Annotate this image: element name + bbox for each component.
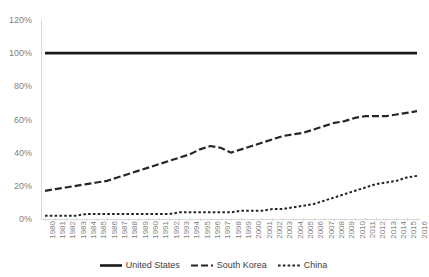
x-axis-tick-mark [159,218,160,221]
x-axis-tick-label: 1992 [173,221,181,239]
chart-legend: United StatesSouth KoreaChina [0,258,427,272]
x-axis: 1980198119821983198419851986198719881989… [42,221,420,257]
x-axis-tick-mark [396,218,397,221]
x-axis-tick-label: 2010 [359,221,367,239]
legend-label: United States [126,261,180,270]
x-axis-tick-mark [45,218,46,221]
x-axis-tick-label: 2006 [317,221,325,239]
x-axis-tick-mark [138,218,139,221]
x-axis-tick-label: 2004 [297,221,305,239]
legend-swatch-icon [191,261,213,270]
legend-swatch-icon [100,261,122,270]
x-axis-tick-mark [314,218,315,221]
x-axis-tick-mark [241,218,242,221]
x-axis-tick-label: 1991 [162,221,170,239]
x-axis-tick-mark [190,218,191,221]
x-axis-tick-label: 1994 [193,221,201,239]
x-axis-tick-label: 1982 [69,221,77,239]
series-line [45,111,417,191]
y-axis-tick-label: 40% [0,148,36,157]
legend-item[interactable]: United States [100,261,180,270]
x-axis-tick-mark [272,218,273,221]
x-axis-tick-label: 2009 [348,221,356,239]
x-axis-tick-label: 1986 [111,221,119,239]
x-axis-tick-label: 2008 [338,221,346,239]
x-axis-tick-mark [283,218,284,221]
legend-label: South Korea [217,261,267,270]
x-axis-tick-label: 2012 [379,221,387,239]
y-axis-tick-label: 60% [0,115,36,124]
legend-item[interactable]: China [278,261,328,270]
x-axis-tick-label: 1987 [121,221,129,239]
legend-swatch-icon [278,261,300,270]
plot-area [42,20,420,219]
x-axis-tick-label: 1984 [90,221,98,239]
x-axis-tick-label: 1988 [131,221,139,239]
x-axis-tick-mark [231,218,232,221]
x-axis-tick-mark [55,218,56,221]
x-axis-tick-label: 2015 [410,221,418,239]
y-axis-tick-label: 120% [0,16,36,25]
x-axis-tick-mark [148,218,149,221]
series-lines [42,20,420,219]
x-axis-tick-label: 2016 [421,221,429,239]
x-axis-tick-label: 1999 [245,221,253,239]
x-axis-tick-mark [355,218,356,221]
x-axis-tick-label: 2003 [286,221,294,239]
x-axis-tick-mark [252,218,253,221]
x-axis-tick-mark [417,218,418,221]
x-axis-tick-mark [76,218,77,221]
x-axis-tick-label: 1998 [235,221,243,239]
x-axis-tick-label: 1983 [80,221,88,239]
legend-item[interactable]: South Korea [191,261,267,270]
x-axis-tick-mark [324,218,325,221]
x-axis-tick-mark [97,218,98,221]
x-axis-tick-label: 1993 [183,221,191,239]
x-axis-tick-mark [66,218,67,221]
x-axis-tick-mark [345,218,346,221]
x-axis-tick-label: 2007 [328,221,336,239]
x-axis-tick-mark [200,218,201,221]
x-axis-tick-label: 2001 [266,221,274,239]
x-axis-tick-label: 1989 [142,221,150,239]
x-axis-tick-label: 1980 [49,221,57,239]
x-axis-tick-mark [386,218,387,221]
x-axis-tick-mark [179,218,180,221]
x-axis-tick-label: 2013 [390,221,398,239]
x-axis-tick-mark [86,218,87,221]
x-axis-tick-label: 2014 [400,221,408,239]
x-axis-tick-label: 1996 [214,221,222,239]
x-axis-tick-mark [221,218,222,221]
x-axis-tick-mark [210,218,211,221]
x-axis-tick-label: 1995 [204,221,212,239]
x-axis-tick-mark [407,218,408,221]
x-axis-tick-label: 2002 [276,221,284,239]
y-axis: 120%100%80%60%40%20%0% [0,0,36,277]
x-axis-tick-mark [117,218,118,221]
x-axis-tick-mark [128,218,129,221]
y-axis-tick-label: 0% [0,215,36,224]
x-axis-tick-mark [293,218,294,221]
x-axis-tick-label: 1981 [59,221,67,239]
x-axis-tick-mark [107,218,108,221]
legend-label: China [304,261,328,270]
x-axis-tick-mark [376,218,377,221]
x-axis-tick-label: 2011 [369,221,377,238]
y-axis-tick-label: 20% [0,181,36,190]
x-axis-tick-mark [262,218,263,221]
x-axis-tick-mark [169,218,170,221]
x-axis-tick-label: 1985 [100,221,108,239]
x-axis-tick-label: 2005 [307,221,315,239]
x-axis-tick-mark [365,218,366,221]
x-axis-tick-mark [303,218,304,221]
x-axis-tick-mark [334,218,335,221]
y-axis-tick-label: 80% [0,82,36,91]
x-axis-tick-label: 2000 [255,221,263,239]
x-axis-tick-label: 1997 [224,221,232,239]
x-axis-tick-label: 1990 [152,221,160,239]
y-axis-tick-label: 100% [0,49,36,58]
